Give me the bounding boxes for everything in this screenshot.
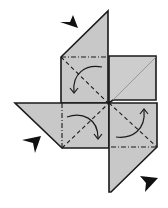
push-arrow-icon: [60, 15, 78, 28]
paper-shape: [15, 11, 157, 192]
upper-right-square: [109, 56, 156, 103]
push-arrow-icon: [140, 176, 158, 192]
push-arrow-icon: [22, 136, 41, 153]
origami-pinwheel-diagram: [0, 0, 168, 208]
